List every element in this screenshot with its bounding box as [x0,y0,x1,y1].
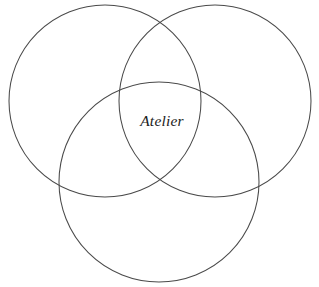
diagram-background [0,0,319,287]
center-intersection-label: Atelier [139,112,184,129]
venn-diagram-svg: Atelier [0,0,319,287]
venn-diagram-canvas: Atelier [0,0,319,287]
